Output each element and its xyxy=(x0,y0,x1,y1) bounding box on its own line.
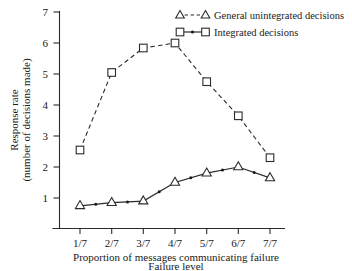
legend-square-right-icon xyxy=(202,28,210,36)
y-tick-label-6: 6 xyxy=(43,37,49,49)
x-axis-ticks xyxy=(80,229,270,235)
data-point-square-6 xyxy=(235,112,243,120)
chart-legend: General unintegrated decisions Integrate… xyxy=(176,10,344,38)
y-tick-label-3: 3 xyxy=(43,130,49,142)
y-tick-label-7: 7 xyxy=(43,6,49,18)
data-point-square-5 xyxy=(203,78,211,86)
data-dot-6 xyxy=(253,171,256,174)
y-axis-title-line1: Response rate xyxy=(8,89,20,151)
x-tick-label-4: 4/7 xyxy=(168,237,183,249)
data-dot-5 xyxy=(221,169,224,172)
y-tick-label-4: 4 xyxy=(43,99,49,111)
data-point-square-1 xyxy=(76,146,84,154)
series-line-dashed xyxy=(80,43,270,158)
data-point-triangle-6 xyxy=(234,162,243,170)
x-axis-subtitle: Failure level xyxy=(148,260,203,271)
legend-label-general-unintegrated: General unintegrated decisions xyxy=(214,10,344,21)
legend-dot-icon xyxy=(191,30,194,33)
x-tick-label-2: 2/7 xyxy=(105,237,120,249)
chart-canvas: 7 6 5 4 3 2 1 1/7 2/7 3/7 4/7 5/7 6/7 7/… xyxy=(0,0,352,271)
figure-response-rate-chart: 7 6 5 4 3 2 1 1/7 2/7 3/7 4/7 5/7 6/7 7/… xyxy=(0,0,352,271)
series-line-solid xyxy=(80,167,270,206)
x-tick-label-7: 7/7 xyxy=(263,237,278,249)
legend-label-integrated: Integrated decisions xyxy=(214,27,298,38)
data-dot-2 xyxy=(126,200,129,203)
legend-entry-integrated: Integrated decisions xyxy=(176,27,298,38)
legend-entry-general-unintegrated: General unintegrated decisions xyxy=(176,10,344,21)
data-point-square-3 xyxy=(140,44,148,52)
data-dot-4 xyxy=(189,176,192,179)
series-general-unintegrated-decisions xyxy=(76,39,274,161)
y-tick-label-5: 5 xyxy=(43,68,49,80)
x-tick-label-5: 5/7 xyxy=(200,237,215,249)
x-tick-label-6: 6/7 xyxy=(231,237,246,249)
legend-triangle-left-icon xyxy=(176,11,185,19)
y-tick-label-2: 2 xyxy=(43,161,49,173)
y-tick-label-1: 1 xyxy=(43,192,49,204)
data-dot-3 xyxy=(158,190,161,193)
data-point-triangle-2 xyxy=(107,198,116,206)
x-tick-label-1: 1/7 xyxy=(73,237,88,249)
x-tick-label-3: 3/7 xyxy=(136,237,151,249)
data-point-square-2 xyxy=(108,69,116,77)
legend-square-left-icon xyxy=(176,28,184,36)
data-point-square-7 xyxy=(266,154,274,162)
y-axis-ticks xyxy=(54,12,60,198)
data-point-square-4 xyxy=(171,39,179,47)
series-integrated-decisions xyxy=(75,162,274,209)
y-axis-title-line2: (number of decisions made) xyxy=(20,58,33,181)
data-point-triangle-1 xyxy=(75,201,84,209)
data-dot-1 xyxy=(94,203,97,206)
legend-triangle-right-icon xyxy=(201,11,210,19)
